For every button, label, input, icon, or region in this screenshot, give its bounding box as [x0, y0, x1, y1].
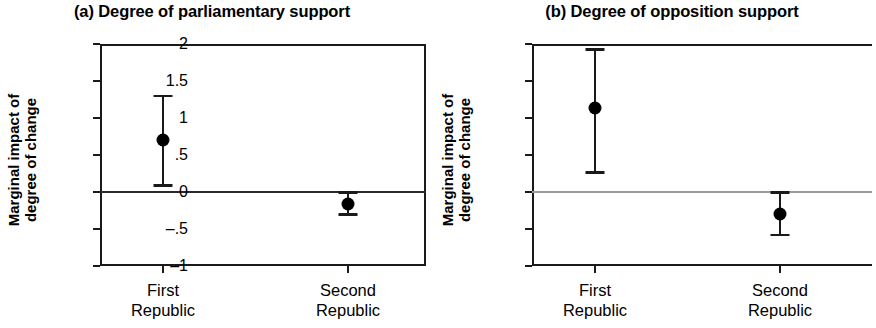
y-axis-tick-mark — [525, 228, 532, 230]
panel-a: (a) Degree of parliamentary support Marg… — [0, 0, 440, 328]
y-axis-tick-label: 1.5 — [142, 73, 188, 89]
confidence-interval-upper-cap — [586, 48, 605, 51]
x-axis-tick-label-line2: Republic — [705, 300, 855, 320]
x-axis-tick-mark — [594, 266, 596, 273]
y-axis-tick-mark — [525, 117, 532, 119]
panel-b: (b) Degree of opposition support Margina… — [432, 0, 864, 328]
confidence-interval-lower-cap — [586, 171, 605, 174]
x-axis-tick-mark — [779, 266, 781, 273]
y-axis-tick-mark — [525, 191, 532, 193]
y-axis-tick-mark — [93, 117, 100, 119]
point-estimate-marker — [774, 208, 787, 221]
y-axis-tick-mark — [93, 154, 100, 156]
point-estimate-marker — [589, 101, 602, 114]
x-axis-tick-label: SecondRepublic — [273, 280, 423, 320]
y-axis-label-line2: degree of change — [22, 98, 39, 222]
point-estimate-marker — [157, 134, 170, 147]
confidence-interval-upper-cap — [154, 95, 173, 98]
y-axis-tick-mark — [525, 265, 532, 267]
y-axis-label-line1: Marginal impact of — [439, 94, 456, 227]
x-axis-tick-label-line2: Republic — [88, 300, 238, 320]
y-axis-tick-mark — [93, 43, 100, 45]
panel-a-title: (a) Degree of parliamentary support — [0, 2, 432, 21]
confidence-interval-upper-cap — [339, 191, 358, 194]
point-estimate-marker — [342, 197, 355, 210]
panel-b-title: (b) Degree of opposition support — [456, 2, 876, 21]
y-axis-tick-mark — [93, 228, 100, 230]
y-axis-tick-mark — [525, 80, 532, 82]
y-axis-label-line2: degree of change — [456, 98, 473, 222]
y-axis-tick-mark — [525, 154, 532, 156]
x-axis-tick-label-line1: First — [520, 280, 670, 300]
confidence-interval-upper-cap — [771, 191, 790, 194]
x-axis-tick-label-line1: Second — [705, 280, 855, 300]
x-axis-tick-label-line2: Republic — [273, 300, 423, 320]
y-axis-tick-mark — [93, 191, 100, 193]
y-axis-tick-mark — [93, 265, 100, 267]
x-axis-tick-label: SecondRepublic — [705, 280, 855, 320]
y-axis-tick-mark — [93, 80, 100, 82]
panel-b-plot-area — [532, 44, 872, 266]
y-axis-tick-label: –.5 — [142, 221, 188, 237]
confidence-interval-lower-cap — [339, 213, 358, 216]
x-axis-tick-label-line2: Republic — [520, 300, 670, 320]
y-axis-label-line1: Marginal impact of — [5, 94, 22, 227]
panel-a-y-axis-label: Marginal impact of degree of change — [4, 44, 40, 276]
y-axis-tick-label: 0 — [142, 184, 188, 200]
x-axis-tick-mark — [347, 266, 349, 273]
panel-b-y-axis-label: Marginal impact of degree of change — [438, 44, 474, 276]
x-axis-tick-label-line1: Second — [273, 280, 423, 300]
y-axis-tick-label: 2 — [142, 36, 188, 52]
confidence-interval-lower-cap — [771, 234, 790, 237]
y-axis-tick-mark — [525, 43, 532, 45]
y-axis-tick-label: –1 — [142, 258, 188, 274]
y-axis-tick-label: .5 — [142, 147, 188, 163]
zero-reference-line — [532, 191, 872, 193]
x-axis-tick-label: FirstRepublic — [520, 280, 670, 320]
y-axis-tick-label: 1 — [142, 110, 188, 126]
x-axis-tick-label-line1: First — [88, 280, 238, 300]
x-axis-tick-label: FirstRepublic — [88, 280, 238, 320]
